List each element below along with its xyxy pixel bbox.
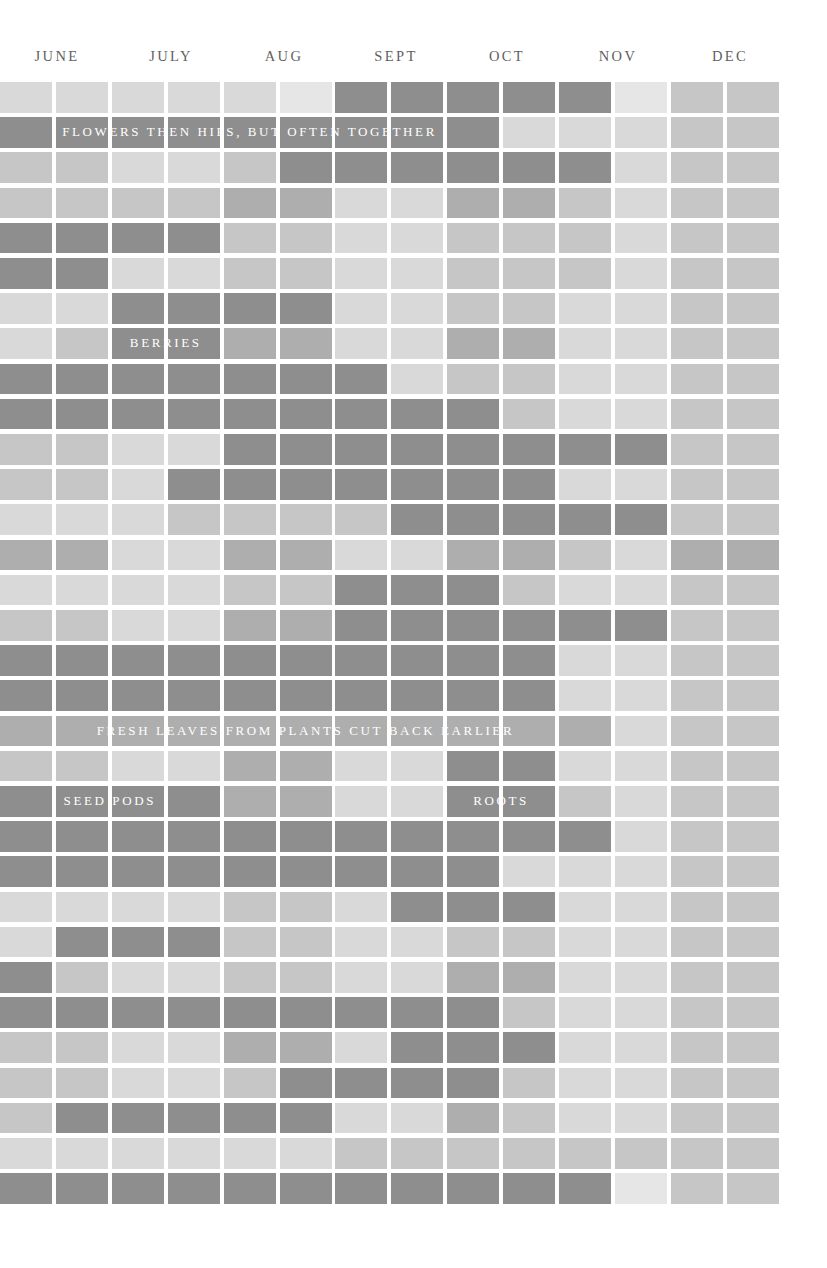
heatmap-cell [280,504,332,535]
heatmap-cell [447,469,499,500]
heatmap-cell [112,1068,164,1099]
heatmap-cell [727,117,779,148]
heatmap-cell [112,434,164,465]
heatmap-cell [56,188,108,219]
heatmap-cell [671,786,723,817]
heatmap-cell [615,293,667,324]
heatmap-cell [112,399,164,430]
heatmap-cell [615,540,667,571]
heatmap-cell [727,716,779,747]
heatmap-cell [335,962,387,993]
heatmap-cell [280,223,332,254]
heatmap-cell [0,575,52,606]
heatmap-cell [391,1173,443,1204]
heatmap-cell [615,223,667,254]
heatmap-cell [503,716,555,747]
heatmap-cell [727,645,779,676]
heatmap-cell [671,1138,723,1169]
heatmap-cell [447,328,499,359]
heatmap-cell [615,610,667,641]
heatmap-cell [168,1068,220,1099]
heatmap-cell [447,1103,499,1134]
heatmap-cell [335,504,387,535]
heatmap-cell [615,117,667,148]
heatmap-cell [56,892,108,923]
heatmap-cell [224,751,276,782]
heatmap-cell [224,258,276,289]
heatmap-cell [615,258,667,289]
heatmap-cell [671,223,723,254]
heatmap-cell [112,540,164,571]
heatmap-cell [0,716,52,747]
heatmap-cell [0,82,52,113]
heatmap-cell [0,1032,52,1063]
heatmap-cell [447,610,499,641]
heatmap-cell [447,223,499,254]
heatmap-cell [56,1068,108,1099]
heatmap-cell [0,610,52,641]
heatmap-cell [559,117,611,148]
heatmap-cell [112,293,164,324]
heatmap-cell [335,188,387,219]
heatmap-cell [168,786,220,817]
heatmap-cell [224,610,276,641]
heatmap-cell [671,434,723,465]
heatmap-cell [727,1103,779,1134]
heatmap-cell [559,293,611,324]
heatmap-cell [559,1138,611,1169]
heatmap-cell [503,962,555,993]
heatmap-cell [447,856,499,887]
heatmap-cell [0,469,52,500]
heatmap-cell [335,786,387,817]
heatmap-cell [280,786,332,817]
heatmap-cell [335,82,387,113]
heatmap-cell [0,1103,52,1134]
heatmap-cell [447,575,499,606]
heatmap-cell [335,258,387,289]
heatmap-cell [615,645,667,676]
heatmap-cell [224,927,276,958]
heatmap-cell [503,364,555,395]
heatmap-cell [280,117,332,148]
heatmap-cell [559,152,611,183]
heatmap-cell [224,469,276,500]
heatmap-cell [615,328,667,359]
heatmap-cell [168,1138,220,1169]
heatmap-cell [168,188,220,219]
heatmap-cell [56,434,108,465]
heatmap-cell [335,575,387,606]
heatmap-cell [559,469,611,500]
heatmap-cell [559,680,611,711]
heatmap-cell [0,152,52,183]
heatmap-cell [615,680,667,711]
heatmap-cell [391,258,443,289]
month-label-july: JULY [114,48,228,65]
heatmap-cell [168,997,220,1028]
heatmap-cell [447,786,499,817]
heatmap-cell [224,680,276,711]
heatmap-cell [727,540,779,571]
heatmap-cell [727,223,779,254]
heatmap-cell [671,680,723,711]
heatmap-cell [56,1138,108,1169]
heatmap-cell [559,821,611,852]
heatmap-cell [727,997,779,1028]
heatmap-cell [112,962,164,993]
heatmap-cell [224,1138,276,1169]
heatmap-cell [224,962,276,993]
heatmap-cell [727,293,779,324]
heatmap-cell [447,1068,499,1099]
heatmap-cell [168,856,220,887]
heatmap-cell [112,469,164,500]
heatmap-cell [615,434,667,465]
heatmap-cell [503,610,555,641]
heatmap-cell [0,751,52,782]
heatmap-cell [671,152,723,183]
heatmap-cell [280,258,332,289]
heatmap-cell [335,540,387,571]
heatmap-cell [615,364,667,395]
heatmap-cell [615,1068,667,1099]
heatmap-cell [112,892,164,923]
heatmap-cell [112,1173,164,1204]
heatmap-cell [391,1138,443,1169]
